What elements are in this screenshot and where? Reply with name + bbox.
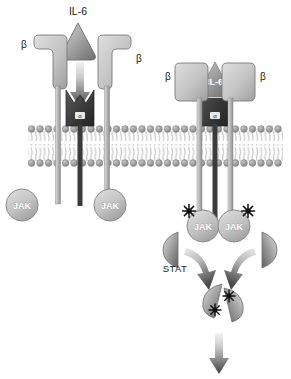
- beta-left-transmembrane-stalk: [56, 86, 61, 204]
- phosphate-star-jak-right: [242, 205, 255, 218]
- beta-label-left-bound: β: [165, 71, 171, 82]
- beta-right-transmembrane-stalk: [105, 86, 110, 204]
- jak-label-1: JAK: [13, 201, 32, 211]
- beta-right-bound-stalk: [228, 98, 233, 226]
- jak-kinase-left-inactive: JAK: [6, 189, 38, 221]
- beta-left-bound-ectodomain: [175, 63, 208, 101]
- phosphate-star-dimer-lower: [209, 304, 221, 316]
- jak-label-3: JAK: [194, 222, 213, 232]
- beta-label-right-unbound: β: [136, 53, 142, 64]
- jak-label-4: JAK: [225, 222, 244, 232]
- jak-label-2: JAK: [101, 201, 120, 211]
- beta-label-right-bound: β: [260, 71, 266, 82]
- alpha-bound-stalk: [213, 124, 218, 220]
- il6-signaling-diagram: IL-6 β β α JAK JAK α: [0, 0, 291, 379]
- plasma-membrane: [28, 126, 283, 167]
- membrane-upper-tails: [28, 131, 283, 146]
- diagram-background: [0, 0, 291, 379]
- membrane-lower-tails: [28, 146, 283, 161]
- phosphate-star-jak-left: [183, 205, 196, 218]
- beta-left-bound-stalk: [197, 98, 202, 226]
- diagram-canvas: IL-6 β β α JAK JAK α: [0, 0, 291, 379]
- alpha-label-bound: α: [213, 113, 217, 119]
- jak-kinase-mid-inactive: JAK: [94, 189, 126, 221]
- stat-label: STAT: [163, 263, 187, 274]
- alpha-label-unbound: α: [78, 113, 82, 119]
- beta-right-bound-ectodomain: [222, 63, 255, 101]
- il6-label: IL-6: [69, 5, 87, 17]
- beta-label-left-unbound: β: [21, 39, 27, 50]
- il6-bound-label: IL-6: [207, 77, 223, 87]
- alpha-transmembrane-stalk: [78, 124, 83, 206]
- phosphate-star-dimer-upper: [223, 290, 235, 302]
